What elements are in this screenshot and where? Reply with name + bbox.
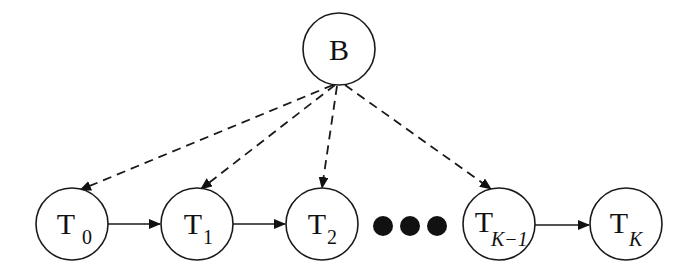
diagram-canvas: B T 0 T 1 T 2 T K−1	[0, 0, 689, 277]
node-t0-subscript: 0	[82, 226, 92, 248]
node-tk-minus-1-subscript: K−1	[490, 228, 528, 250]
node-t0-label: T	[57, 207, 75, 240]
dashed-edges	[80, 85, 491, 190]
node-t2: T 2	[286, 188, 358, 260]
node-t2-subscript: 2	[327, 226, 337, 248]
edge-b-to-tk-1	[345, 85, 491, 189]
node-t1-subscript: 1	[203, 226, 213, 248]
node-t2-label: T	[308, 207, 326, 240]
ellipsis-dot-3	[427, 216, 447, 236]
edge-b-to-t1	[201, 85, 335, 189]
node-b-label: B	[329, 33, 349, 66]
node-b: B	[303, 13, 375, 85]
ellipsis-dots	[373, 216, 447, 236]
ellipsis-dot-1	[373, 216, 393, 236]
node-tk-label: T	[610, 206, 628, 239]
edge-b-to-t0	[80, 85, 333, 190]
node-tk: T K	[590, 188, 662, 260]
node-tk-minus-1: T K−1	[463, 188, 535, 260]
edge-b-to-t2	[322, 86, 337, 188]
node-t1: T 1	[161, 188, 233, 260]
ellipsis-dot-2	[400, 216, 420, 236]
node-tk-subscript: K	[628, 228, 644, 250]
node-t0: T 0	[36, 188, 108, 260]
node-t1-label: T	[184, 207, 202, 240]
